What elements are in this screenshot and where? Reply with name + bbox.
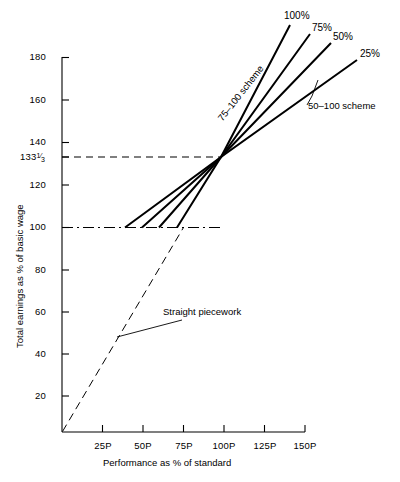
series-label-25-percent: 25% bbox=[360, 48, 380, 59]
label-50-100-scheme: 50–100 scheme bbox=[308, 100, 376, 111]
series-label-50-percent: 50% bbox=[333, 31, 353, 42]
x-axis-title: Performance as % of standard bbox=[103, 457, 231, 468]
leader-line-straight-piecework bbox=[117, 320, 182, 337]
y-axis-title: Total earnings as % of basic wage bbox=[14, 204, 25, 348]
series-line-25-percent bbox=[177, 60, 357, 228]
series-line-straight-piecework bbox=[63, 228, 184, 432]
x-tick-label-125p: 125P bbox=[245, 440, 285, 451]
y-tick-label-140: 140 bbox=[14, 136, 46, 147]
x-tick-label-100p: 100P bbox=[204, 440, 244, 451]
y-tick-label-20: 20 bbox=[14, 390, 46, 401]
series-label-75-percent: 75% bbox=[312, 22, 332, 33]
y-tick-label-160: 160 bbox=[14, 94, 46, 105]
x-tick-label-75p: 75P bbox=[164, 440, 204, 451]
series-line-75-percent bbox=[142, 34, 310, 228]
y-tick-133-denominator: 3 bbox=[41, 156, 45, 163]
series-label-100-percent: 100% bbox=[284, 10, 310, 21]
y-tick-label-180: 180 bbox=[14, 51, 46, 62]
x-tick-label-50p: 50P bbox=[123, 440, 163, 451]
y-tick-label-40: 40 bbox=[14, 348, 46, 359]
y-tick-133-numerator: 1 bbox=[36, 152, 40, 159]
chart-canvas bbox=[0, 0, 400, 482]
x-tick-label-25p: 25P bbox=[83, 440, 123, 451]
series-line-50-percent bbox=[159, 43, 331, 228]
y-tick-133-fraction: 1⁄3 bbox=[36, 152, 46, 161]
x-tick-label-150p: 150P bbox=[285, 440, 325, 451]
y-tick-label-120: 120 bbox=[14, 179, 46, 190]
label-straight-piecework: Straight piecework bbox=[163, 306, 241, 317]
y-axis-ticks bbox=[62, 58, 69, 397]
y-tick-label-133-third: 1331⁄3 bbox=[4, 151, 46, 163]
y-tick-133-whole: 133 bbox=[20, 151, 36, 162]
x-axis-ticks bbox=[103, 425, 306, 432]
chart-figure: 180 160 140 1331⁄3 120 100 80 60 40 20 2… bbox=[0, 0, 400, 482]
